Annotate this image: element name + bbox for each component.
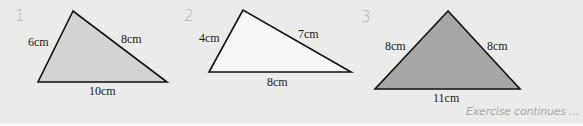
triangle-2-side-bottom: 8cm — [267, 75, 288, 90]
problem-number-3: 3 — [361, 8, 371, 26]
exercise-continues-note: Exercise continues ... — [466, 105, 579, 118]
triangle-2-side-right: 7cm — [298, 27, 319, 42]
problem-number-2: 2 — [184, 7, 194, 25]
exercise-page: 1 6cm 8cm 10cm 2 4cm 7cm 8cm 3 8cm 8cm 1… — [0, 0, 583, 123]
triangle-2-side-left: 4cm — [199, 31, 220, 46]
triangle-3-side-bottom: 11cm — [433, 91, 459, 106]
triangle-2 — [209, 10, 351, 72]
triangle-1-side-bottom: 10cm — [89, 84, 116, 99]
problem-number-1: 1 — [15, 7, 25, 25]
triangle-1-side-right: 8cm — [121, 32, 142, 47]
triangle-1-side-left: 6cm — [28, 35, 49, 50]
triangle-1 — [38, 11, 167, 82]
page-bottom-edge — [0, 123, 583, 126]
triangle-3-side-left: 8cm — [385, 39, 406, 54]
triangle-3-side-right: 8cm — [487, 39, 508, 54]
